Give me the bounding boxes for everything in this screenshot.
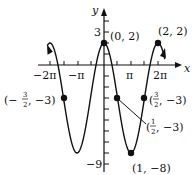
label-m32-m3: (− 3 2 , −3) bbox=[4, 91, 56, 109]
svg-text:2: 2 bbox=[151, 128, 155, 136]
label-1-m8: (1, −8) bbox=[132, 162, 171, 175]
label-2-2: (2, 2) bbox=[158, 25, 188, 38]
x-axis-arrow-icon bbox=[175, 62, 182, 68]
svg-text:3: 3 bbox=[23, 91, 27, 99]
y-axis-label: y bbox=[91, 4, 99, 17]
tick-label-m2pi: −2π bbox=[33, 69, 56, 82]
svg-text:1: 1 bbox=[151, 118, 155, 126]
tick-label-3: 3 bbox=[94, 26, 101, 39]
point-2-2 bbox=[155, 40, 161, 46]
point-0-2 bbox=[101, 40, 107, 46]
point-1-m8 bbox=[128, 150, 134, 156]
label-32-m3: ( 3 2 , −3) bbox=[149, 91, 187, 109]
svg-text:(: ( bbox=[146, 121, 150, 134]
label-12-m3: ( 1 2 , −3) bbox=[146, 118, 184, 136]
svg-text:(: ( bbox=[149, 94, 153, 107]
svg-text:2: 2 bbox=[23, 101, 27, 109]
y-axis-arrow-icon bbox=[101, 8, 107, 16]
label-0-2: (0, 2) bbox=[110, 30, 140, 43]
point-m32-m3 bbox=[61, 95, 67, 101]
svg-text:(−: (− bbox=[4, 94, 18, 107]
tick-label-mpi: −π bbox=[68, 69, 84, 82]
x-axis-label: x bbox=[184, 62, 191, 75]
svg-text:2: 2 bbox=[154, 101, 158, 109]
curve-right-arrow-icon bbox=[160, 48, 166, 58]
graph-figure: x y −2π −π π 2π 3 −9 (0, 2) (2, 2) (1, −… bbox=[0, 0, 195, 175]
svg-text:3: 3 bbox=[154, 91, 158, 99]
point-32-m3 bbox=[141, 95, 147, 101]
tick-label-pi: π bbox=[126, 69, 133, 82]
graph-svg: x y −2π −π π 2π 3 −9 (0, 2) (2, 2) (1, −… bbox=[0, 0, 195, 175]
tick-label-2pi: 2π bbox=[153, 69, 167, 82]
svg-text:, −3): , −3) bbox=[159, 94, 187, 107]
svg-text:, −3): , −3) bbox=[28, 94, 56, 107]
tick-label-m9: −9 bbox=[86, 158, 102, 171]
svg-text:, −3): , −3) bbox=[156, 121, 184, 134]
